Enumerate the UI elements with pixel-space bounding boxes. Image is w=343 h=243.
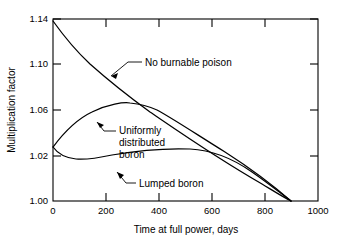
x-tick-label-1000: 1000 [307,205,328,216]
annotation-label-uniform-line1: Uniformly [119,125,161,136]
chart-figure: 1.14 1.10 1.06 1.02 1.00 0 200 400 600 8… [0,0,343,243]
annotation-no-burnable-poison: No burnable poison [111,57,232,79]
y-tick-label-110: 1.10 [30,58,49,69]
annotation-lumped-boron: Lumped boron [117,172,204,189]
y-axis-ticks-right [310,19,318,156]
x-axis-ticks [106,193,265,201]
y-tick-label-102: 1.02 [30,150,49,161]
annotation-label-lumped-boron: Lumped boron [139,178,204,189]
arrowhead-icon [111,73,118,79]
annotation-label-no-burnable-poison: No burnable poison [145,57,232,68]
y-axis-ticks [53,19,61,156]
x-tick-label-400: 400 [151,205,167,216]
x-tick-label-800: 800 [257,205,273,216]
y-axis-title: Multiplication factor [6,67,17,153]
annotation-uniformly-distributed-boron: Uniformly distributed boron [97,122,165,160]
arrowhead-icon [117,172,124,179]
arrowhead-icon [97,122,104,128]
y-tick-label-106: 1.06 [30,104,49,115]
chart-svg: 1.14 1.10 1.06 1.02 1.00 0 200 400 600 8… [0,0,343,243]
x-axis-title: Time at full power, days [134,224,239,235]
plot-frame [53,19,318,201]
y-tick-label-114: 1.14 [30,13,49,24]
x-tick-label-200: 200 [98,205,114,216]
y-tick-label-100: 1.00 [30,195,49,206]
x-tick-label-600: 600 [204,205,220,216]
annotation-label-uniform-line3: boron [119,149,145,160]
annotation-label-uniform-line2: distributed [119,137,165,148]
curve-lumped-boron [53,147,291,201]
x-axis-ticks-top [106,19,265,27]
x-tick-label-0: 0 [50,205,55,216]
